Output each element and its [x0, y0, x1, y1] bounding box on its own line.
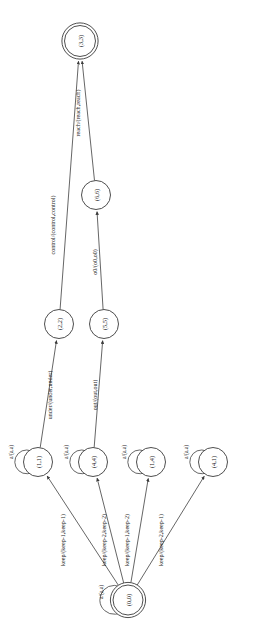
state-node-14[interactable]: (1,4) — [137, 448, 166, 477]
self-loop-label-n00: a/(a,a) — [98, 585, 105, 599]
edge-label-e2: reach/(reach,reach) — [75, 90, 82, 137]
state-label: (6,6) — [93, 189, 101, 201]
edge-label-e1: control/(control,control) — [50, 195, 57, 254]
edge-label-e4: under/(under,under) — [47, 371, 54, 420]
state-label: (4,4) — [90, 456, 98, 468]
state-machine-diagram: (3,3)(6,6)(2,2)(5,5)(1,1)(4,4)(1,4)(4,1)… — [0, 0, 259, 637]
self-loop-label-n11: a/(a,a) — [8, 445, 15, 459]
state-node-00[interactable]: (0,0) — [110, 582, 145, 617]
edge-label-e9: keep/(keep-2,keep-1) — [158, 514, 165, 566]
state-label: (4,1) — [210, 456, 218, 468]
state-node-66[interactable]: (6,6) — [82, 181, 111, 210]
edge-n66-to-n33 — [82, 61, 94, 180]
state-node-33[interactable]: (3,3) — [62, 23, 98, 59]
edge-n00-to-n41 — [137, 476, 204, 585]
state-label: (0,0) — [125, 594, 133, 606]
state-node-44[interactable]: (4,4) — [79, 448, 108, 477]
state-label: (2,2) — [56, 318, 64, 330]
edge-n00-to-n11 — [47, 476, 118, 585]
edge-label-e8: keep/(keep-1,keep-2) — [124, 514, 131, 566]
state-node-55[interactable]: (5,5) — [90, 310, 119, 339]
edge-n00-to-n14 — [131, 478, 148, 582]
state-label: (1,1) — [35, 456, 43, 468]
edge-label-e6: keep/(keep-1,keep-1) — [60, 514, 67, 566]
edge-label-e5: out/(out,out) — [92, 380, 99, 411]
state-label: (5,5) — [101, 318, 109, 330]
edge-label-e7: keep/(keep-2,keep-2) — [101, 514, 108, 566]
state-label: (3,3) — [77, 35, 85, 47]
state-node-11[interactable]: (1,1) — [24, 448, 53, 477]
state-label: (1,4) — [148, 456, 156, 468]
edge-label-e3: o0/(o0,o0) — [92, 249, 99, 275]
state-node-22[interactable]: (2,2) — [45, 310, 74, 339]
labels-layer: control/(control,control)reach/(reach,re… — [8, 90, 190, 600]
self-loop-label-n14: a/(a,a) — [121, 445, 128, 459]
self-loop-label-n44: a/(a,a) — [63, 445, 70, 459]
state-node-41[interactable]: (4,1) — [199, 448, 228, 477]
self-loop-label-n41: a/(a,a) — [183, 445, 190, 459]
